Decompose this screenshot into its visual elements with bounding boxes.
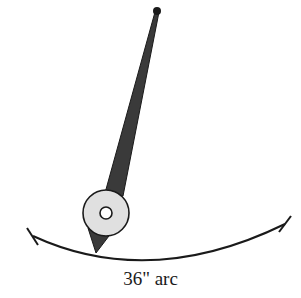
pivot-dot — [153, 7, 161, 15]
hub-hole — [100, 207, 112, 219]
needle-shaft — [105, 12, 159, 196]
swing-arc — [33, 224, 285, 260]
arc-length-label: 36" arc — [0, 268, 301, 290]
arc-right-end-cap — [279, 216, 291, 232]
pendulum-diagram — [0, 0, 301, 298]
